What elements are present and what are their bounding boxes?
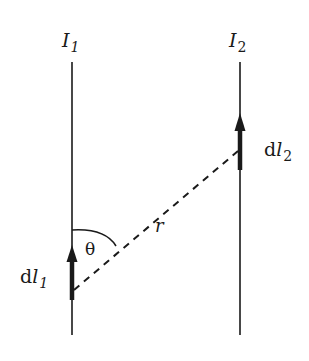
current-element-dl1-arrow-icon bbox=[67, 245, 78, 300]
element-label-dl2: dl2 bbox=[264, 138, 292, 164]
angle-label-theta: θ bbox=[85, 239, 95, 259]
current-element-dl2-arrow-icon bbox=[235, 113, 246, 170]
ampere-force-diagram: I1 I2 dl1 dl2 r θ bbox=[0, 0, 309, 361]
current-label-1: I1 bbox=[61, 29, 79, 55]
element-label-dl1: dl1 bbox=[20, 265, 48, 291]
separation-label-r: r bbox=[155, 215, 165, 236]
current-label-2: I2 bbox=[228, 29, 246, 55]
